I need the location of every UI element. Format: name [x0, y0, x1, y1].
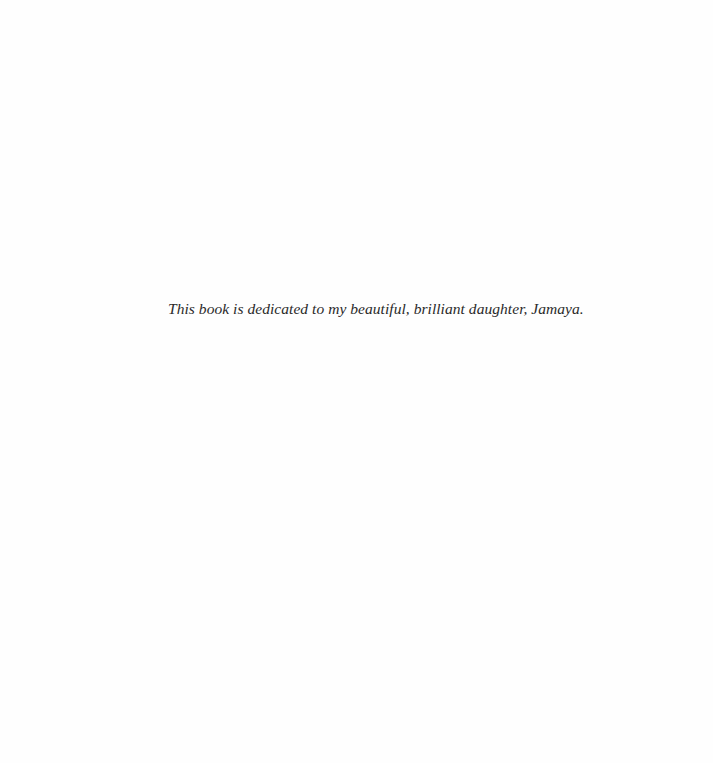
book-page: This book is dedicated to my beautiful, … [0, 0, 713, 763]
dedication-text: This book is dedicated to my beautiful, … [168, 300, 584, 318]
